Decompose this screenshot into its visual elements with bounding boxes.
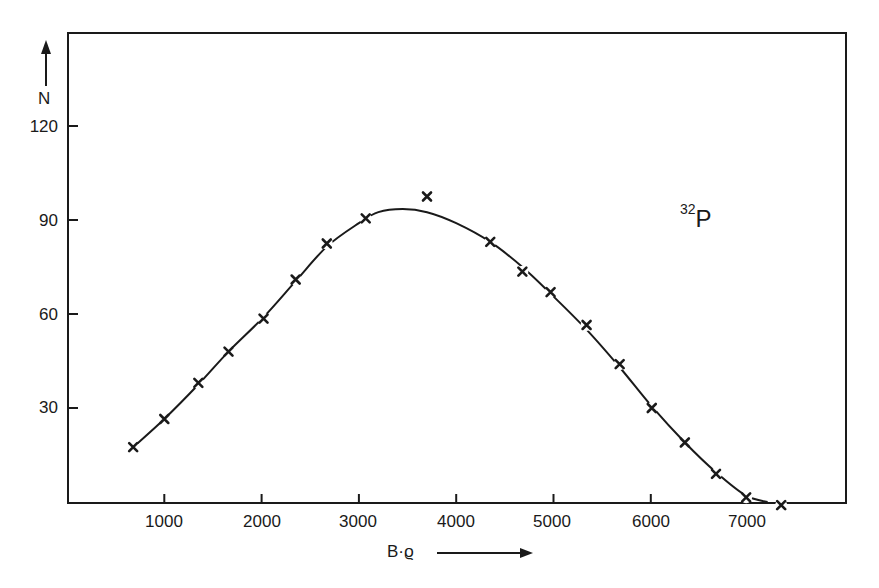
isotope-symbol: P	[696, 205, 712, 232]
y-tick-label-120: 120	[8, 117, 58, 137]
x-axis-title: B·ϱ	[387, 542, 414, 562]
plot-frame	[68, 33, 846, 503]
y-tick-label-90: 90	[8, 211, 58, 231]
x-tick-label-2000: 2000	[232, 512, 292, 532]
x-tick-label-5000: 5000	[522, 512, 582, 532]
chart-canvas	[0, 0, 879, 588]
y-axis-title: N	[38, 89, 50, 109]
y-tick-label-60: 60	[8, 305, 58, 325]
x-tick-label-7000: 7000	[717, 512, 777, 532]
x-tick-label-1000: 1000	[134, 512, 194, 532]
isotope-annotation: 32P	[680, 205, 712, 233]
axis-arrows	[41, 40, 533, 558]
data-markers	[127, 191, 787, 512]
x-tick-label-3000: 3000	[328, 512, 388, 532]
x-tick-label-6000: 6000	[621, 512, 681, 532]
y-tick-label-30: 30	[8, 398, 58, 418]
isotope-mass: 32	[680, 201, 696, 217]
x-tick-label-4000: 4000	[426, 512, 486, 532]
